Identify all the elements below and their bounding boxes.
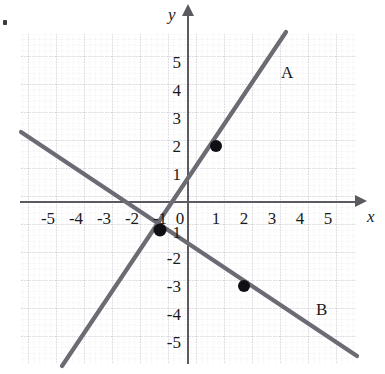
y-tick-1: 1 [167, 166, 181, 183]
y-tick-minus-5: -5 [158, 334, 181, 351]
y-tick-minus-1: 1 [167, 224, 181, 241]
x-tick-4: 4 [296, 210, 305, 227]
x-axis-label: x [367, 208, 375, 225]
line-b [21, 132, 357, 356]
y-tick-minus-2: -2 [158, 250, 181, 267]
line-b-label: B [316, 301, 327, 318]
x-tick-minus-3: -3 [97, 210, 111, 227]
point-on-line-a [210, 140, 222, 152]
x-tick-2: 2 [240, 210, 249, 227]
x-tick-minus-2: -2 [125, 210, 139, 227]
graph-figure: -5 -4 -3 -2 -1 0 1 2 3 4 5 1 2 3 4 5 1 -… [0, 0, 385, 374]
x-tick-minus-4: -4 [69, 210, 83, 227]
y-tick-minus-4: -4 [158, 306, 181, 323]
line-a-label: A [281, 64, 293, 81]
y-tick-4: 4 [167, 82, 181, 99]
y-tick-minus-3: -3 [158, 278, 181, 295]
x-tick-5: 5 [324, 210, 333, 227]
x-tick-minus-5: -5 [41, 210, 55, 227]
y-tick-3: 3 [167, 110, 181, 127]
x-tick-3: 3 [268, 210, 277, 227]
x-tick-1: 1 [212, 210, 221, 227]
y-tick-2: 2 [167, 138, 181, 155]
y-axis-label: y [168, 6, 176, 23]
point-on-line-b [238, 280, 250, 292]
y-tick-5: 5 [167, 54, 181, 71]
x-tick-minus-1: -1 [153, 210, 167, 227]
